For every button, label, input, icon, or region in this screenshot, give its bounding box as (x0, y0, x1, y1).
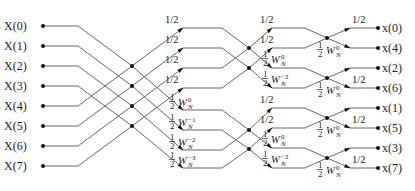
stage1-out-wire (132, 88, 222, 126)
stage2-node-dot (247, 46, 251, 50)
input-node-dot (41, 124, 45, 128)
input-node-dot (41, 84, 45, 88)
stage3-node-dot (325, 76, 329, 80)
svg-text:W: W (178, 97, 188, 108)
stage2-node-dot (247, 128, 251, 132)
output-node-dot (376, 106, 380, 110)
svg-text:W: W (178, 137, 188, 148)
stage3-upper-label: 1/2 (352, 114, 365, 125)
stage1-node-dot (130, 84, 134, 88)
arrow-icon (132, 88, 183, 126)
input-label-7: X(7) (4, 159, 27, 173)
stage2-twiddle-label: 12W0N (262, 129, 286, 148)
input-label-2: X(2) (4, 59, 27, 73)
stage1-node-dot (130, 124, 134, 128)
stage3-upper-label: 1/2 (352, 74, 365, 85)
arrow-icon (327, 148, 350, 158)
svg-text:2: 2 (318, 49, 323, 59)
svg-text:N: N (187, 123, 193, 131)
output-label-6: x(3) (382, 141, 402, 155)
stage2-upper-label: 1/2 (260, 114, 273, 125)
output-label-2: x(2) (382, 61, 402, 75)
svg-text:N: N (280, 140, 286, 148)
svg-text:W: W (326, 125, 336, 136)
stage1-twiddle-label: 12W−2N (169, 132, 196, 151)
svg-text:N: N (187, 103, 193, 111)
stage2-upper-label: 1/2 (260, 14, 273, 25)
input-node-dot (41, 144, 45, 148)
stage2-wire (222, 28, 249, 48)
input-node-dot (41, 44, 45, 48)
arrow-icon (249, 68, 272, 88)
stage1-upper-label: 1/2 (165, 54, 178, 65)
output-node-dot (376, 86, 380, 90)
input-label-5: X(5) (4, 119, 27, 133)
stage3-wire (305, 38, 327, 48)
output-label-1: x(4) (382, 41, 402, 55)
svg-text:2: 2 (263, 78, 268, 88)
svg-text:N: N (335, 51, 341, 59)
input-label-1: X(1) (4, 39, 27, 53)
input-node-dot (41, 164, 45, 168)
input-label-6: X(6) (4, 139, 27, 153)
svg-text:W: W (178, 117, 188, 128)
stage3-wire (305, 158, 327, 168)
svg-text:2: 2 (318, 129, 323, 139)
svg-text:W: W (271, 74, 281, 85)
output-node-dot (376, 166, 380, 170)
stage3-upper-label: 1/2 (352, 14, 365, 25)
stage3-out-wire (327, 28, 378, 38)
svg-text:2: 2 (318, 169, 323, 179)
stage2-upper-label: 1/2 (260, 34, 273, 45)
svg-text:2: 2 (170, 101, 175, 111)
output-node-dot (376, 26, 380, 30)
svg-text:W: W (271, 134, 281, 145)
stage1-twiddle-label: 12W−3N (169, 150, 196, 169)
input-label-4: X(4) (4, 99, 27, 113)
output-label-4: x(1) (382, 101, 402, 115)
stage1-upper-label: 1/2 (165, 14, 178, 25)
svg-text:W: W (178, 155, 188, 166)
svg-text:N: N (187, 143, 193, 151)
svg-text:W: W (326, 165, 336, 176)
svg-text:2: 2 (263, 138, 268, 148)
stage3-wire (305, 28, 327, 38)
output-node-dot (376, 126, 380, 130)
output-node-dot (376, 66, 380, 70)
svg-text:N: N (335, 171, 341, 179)
svg-text:W: W (271, 54, 281, 65)
output-label-7: x(7) (382, 161, 402, 175)
arrow-icon (132, 106, 183, 150)
input-node-dot (41, 24, 45, 28)
svg-text:W: W (326, 45, 336, 56)
arrow-icon (327, 108, 350, 118)
stage1-out-wire (132, 106, 222, 150)
svg-text:N: N (335, 131, 341, 139)
stage2-wire (222, 149, 249, 168)
svg-text:2: 2 (170, 121, 175, 131)
stage1-out-wire (132, 126, 222, 168)
stage2-twiddle-label: 12W−2N (262, 149, 289, 168)
svg-text:W: W (271, 154, 281, 165)
arrow-icon (327, 28, 350, 38)
stage2-wire (222, 110, 249, 130)
stage3-node-dot (325, 36, 329, 40)
stage2-twiddle-label: 12W−2N (262, 69, 289, 88)
output-label-3: x(6) (382, 81, 402, 95)
svg-text:N: N (280, 60, 286, 68)
stage3-wire (305, 78, 327, 88)
svg-text:2: 2 (170, 159, 175, 169)
output-label-5: x(5) (382, 121, 402, 135)
arrow-icon (132, 86, 183, 130)
stage3-node-dot (325, 156, 329, 160)
svg-text:2: 2 (263, 58, 268, 68)
stage2-node-dot (247, 147, 251, 151)
output-node-dot (376, 146, 380, 150)
stage2-out-wire (249, 108, 305, 130)
svg-text:2: 2 (318, 89, 323, 99)
output-label-0: x(0) (382, 21, 402, 35)
svg-text:2: 2 (263, 158, 268, 168)
fft-butterfly-diagram: X(0)X(1)X(2)X(3)X(4)X(5)X(6)X(7)1/212W0N… (0, 0, 415, 191)
arrow-icon (249, 149, 272, 168)
arrow-icon (132, 66, 183, 110)
